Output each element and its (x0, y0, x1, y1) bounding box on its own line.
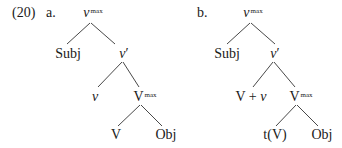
node-b-obj: Obj (312, 128, 333, 142)
node-b-complex-head: V + v (236, 90, 267, 104)
edge-a-root-subj (67, 23, 90, 44)
node-b-vbar: v′ (270, 47, 279, 61)
tree-b-label: b. (197, 6, 208, 20)
edge-a-vbar-vmax (123, 62, 139, 87)
edge-b-vbar-vmax (274, 62, 295, 87)
node-a-big-vmax: Vmax (133, 90, 156, 104)
node-b-subj: Subj (214, 47, 240, 61)
edge-b-root-vbar (251, 23, 275, 44)
node-a-obj: Obj (156, 128, 177, 142)
edge-a-root-vbar (91, 23, 115, 44)
tree-a-label: a. (46, 6, 56, 20)
tree-edges (0, 0, 342, 148)
node-b-big-vmax: Vmax (289, 90, 312, 104)
node-a-vmax-root: vmax (83, 6, 102, 20)
edge-a-vmax-obj (141, 105, 162, 126)
node-a-vbar: v′ (119, 47, 128, 61)
node-a-subj: Subj (55, 47, 81, 61)
edge-b-root-subj (227, 23, 250, 44)
node-b-trace: t(V) (263, 128, 286, 142)
node-b-vmax-root: vmax (243, 6, 262, 20)
edge-a-vmax-verb (118, 105, 140, 126)
example-number: (20) (12, 6, 35, 20)
edge-b-vmax-trace (276, 105, 296, 126)
edge-a-vbar-v (98, 62, 122, 87)
edge-b-vmax-obj (297, 105, 318, 126)
edge-b-vbar-head (253, 62, 273, 87)
node-a-little-v: v (92, 90, 98, 104)
node-a-verb: V (111, 128, 121, 142)
